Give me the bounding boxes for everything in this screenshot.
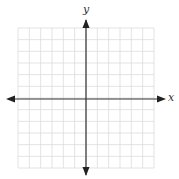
y-axis-label: y — [83, 4, 89, 15]
y-axis-top-arrow-icon — [83, 19, 90, 28]
x-axis-left-arrow-icon — [6, 96, 15, 103]
y-axis-bottom-arrow-icon — [83, 167, 90, 176]
coordinate-grid — [0, 0, 179, 179]
x-axis-right-arrow-icon — [157, 96, 166, 103]
x-axis-label: x — [168, 92, 174, 103]
coordinate-plane: y x — [0, 0, 179, 179]
